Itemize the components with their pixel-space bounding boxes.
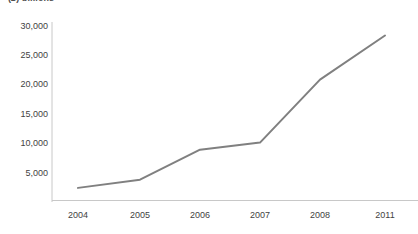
- x-axis-tick-label: 2005: [130, 210, 150, 220]
- x-axis-tick-label: 2006: [190, 210, 210, 220]
- data-series-line: [78, 36, 385, 188]
- chart-svg: [0, 0, 418, 234]
- chart-container: (£) billions 5,00010,00015,00020,00025,0…: [0, 0, 418, 234]
- x-axis-tick-labels: 200420052006200720082011: [0, 210, 418, 226]
- line-chart-plot-area: 5,00010,00015,00020,00025,00030,000 2004…: [0, 0, 418, 234]
- x-axis-tick-label: 2007: [250, 210, 270, 220]
- x-axis-tick-label: 2011: [375, 210, 394, 220]
- x-axis-tick-label: 2004: [68, 210, 88, 220]
- x-axis-tick-label: 2008: [310, 210, 330, 220]
